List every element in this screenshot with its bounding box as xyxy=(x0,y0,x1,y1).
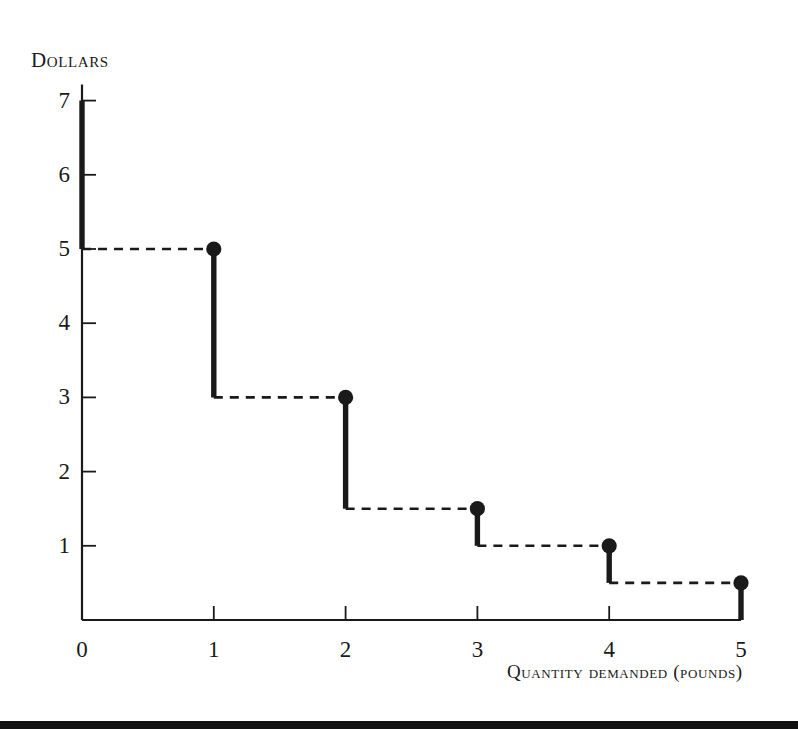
page-bottom-rule xyxy=(0,721,798,729)
axes-group xyxy=(82,85,741,620)
y-tick-label: 7 xyxy=(44,89,70,112)
chart-figure: Dollars Quantity demanded (pounds) 12345… xyxy=(0,0,798,729)
y-tick-label: 5 xyxy=(44,237,70,260)
x-axis-title: Quantity demanded (pounds) xyxy=(507,661,743,683)
y-axis-title: Dollars xyxy=(31,48,109,73)
y-tick-label: 4 xyxy=(44,311,70,334)
data-point-marker xyxy=(602,538,617,553)
data-point-marker xyxy=(733,575,748,590)
x-tick-label: 4 xyxy=(594,638,624,661)
y-tick-label: 1 xyxy=(44,534,70,557)
axis-ticks-group xyxy=(82,101,741,620)
y-tick-label: 3 xyxy=(44,385,70,408)
data-point-marker xyxy=(338,390,353,405)
x-tick-label: 0 xyxy=(67,638,97,661)
y-tick-label: 6 xyxy=(44,163,70,186)
step-chart-plot xyxy=(0,0,798,729)
x-tick-label: 1 xyxy=(199,638,229,661)
dashed-connector-group xyxy=(82,249,741,583)
data-point-marker xyxy=(470,501,485,516)
vertical-drop-group xyxy=(82,101,741,620)
x-tick-label: 2 xyxy=(331,638,361,661)
x-tick-label: 5 xyxy=(726,638,756,661)
y-tick-label: 2 xyxy=(44,460,70,483)
x-tick-label: 3 xyxy=(462,638,492,661)
data-point-marker xyxy=(206,241,221,256)
